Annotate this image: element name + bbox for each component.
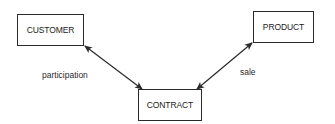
participation-arrow xyxy=(85,46,142,89)
entity-product-label: PRODUCT xyxy=(263,22,304,32)
relationship-label-sale: sale xyxy=(240,67,256,77)
sale-arrow xyxy=(197,43,252,89)
entity-contract: CONTRACT xyxy=(138,89,202,121)
entity-customer-label: CUSTOMER xyxy=(27,25,75,35)
entity-product: PRODUCT xyxy=(253,11,314,43)
entity-contract-label: CONTRACT xyxy=(147,100,193,110)
relationship-label-participation: participation xyxy=(42,70,88,80)
entity-customer: CUSTOMER xyxy=(17,14,84,46)
